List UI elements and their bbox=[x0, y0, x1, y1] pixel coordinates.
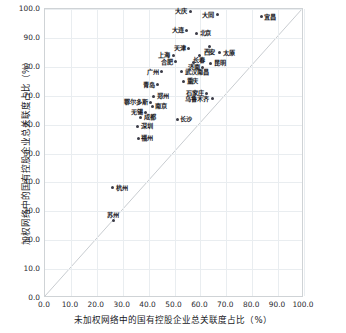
gridline-vertical bbox=[97, 9, 98, 296]
data-point bbox=[176, 118, 179, 121]
gridline-vertical bbox=[71, 9, 72, 296]
y-axis-label-wrap: 加权网络中的国有控股企业总关联度占比（%） bbox=[8, 8, 24, 297]
plot-area: 大庆大同宜昌大连北京天津西安太原上海长春合肥济南昆明南昌广州武汉重庆青岛石家庄郑… bbox=[44, 8, 303, 297]
y-axis-tick-label: 20.0 bbox=[24, 235, 40, 244]
gridline-horizontal bbox=[45, 96, 302, 97]
gridline-horizontal bbox=[45, 240, 302, 241]
y-axis-tick-label: 70.0 bbox=[24, 90, 40, 99]
gridline-horizontal bbox=[45, 182, 302, 183]
gridline-horizontal bbox=[45, 38, 302, 39]
y-axis-tick-label: 10.0 bbox=[24, 264, 40, 273]
data-point-label: 杭州 bbox=[116, 184, 128, 190]
data-point-label: 武汉 bbox=[185, 69, 197, 75]
data-point-label: 太原 bbox=[223, 50, 235, 56]
x-axis-tick-label: 10.0 bbox=[62, 300, 78, 309]
data-point-label: 南京 bbox=[155, 103, 167, 109]
x-axis-tick-label: 90.0 bbox=[269, 300, 285, 309]
data-point-label: 长沙 bbox=[180, 116, 192, 122]
gridline-vertical bbox=[278, 9, 279, 296]
data-point-label: 苏州 bbox=[107, 211, 119, 217]
x-axis-tick-label: 60.0 bbox=[191, 300, 207, 309]
scatter-chart-figure: 大庆大同宜昌大连北京天津西安太原上海长春合肥济南昆明南昌广州武汉重庆青岛石家庄郑… bbox=[0, 0, 346, 333]
gridline-horizontal bbox=[45, 9, 302, 10]
data-point-label: 大连 bbox=[172, 27, 184, 33]
data-point-label: 南昌 bbox=[197, 69, 209, 75]
data-point-label: 重庆 bbox=[187, 78, 199, 84]
data-point-label: 大同 bbox=[202, 12, 214, 18]
data-point bbox=[209, 62, 212, 65]
data-point-label: 郑州 bbox=[157, 93, 169, 99]
data-point-label: 无锡 bbox=[131, 109, 143, 115]
x-axis-tick-label: 100.0 bbox=[292, 300, 313, 309]
data-point-label: 天津 bbox=[174, 45, 186, 51]
gridline-horizontal bbox=[45, 154, 302, 155]
data-point bbox=[172, 54, 175, 57]
data-point-label: 青岛 bbox=[143, 82, 155, 88]
gridline-vertical bbox=[149, 9, 150, 296]
x-axis-tick-label: 70.0 bbox=[217, 300, 233, 309]
data-point bbox=[182, 80, 185, 83]
x-axis-tick-label: 20.0 bbox=[88, 300, 104, 309]
data-point-label: 成都 bbox=[144, 114, 156, 120]
data-point-label: 大庆 bbox=[175, 8, 187, 14]
x-axis-tick-label: 80.0 bbox=[243, 300, 259, 309]
gridline-horizontal bbox=[45, 125, 302, 126]
data-point bbox=[195, 32, 198, 35]
y-axis-tick-label: 80.0 bbox=[24, 61, 40, 70]
y-axis-tick-label: 0.0 bbox=[28, 293, 40, 302]
data-point bbox=[137, 137, 140, 140]
data-point-label: 西安 bbox=[204, 49, 216, 55]
data-point-label: 合肥 bbox=[161, 58, 173, 64]
data-point-label: 宜昌 bbox=[264, 14, 276, 20]
data-point-label: 广州 bbox=[147, 69, 159, 75]
y-axis-tick-label: 30.0 bbox=[24, 206, 40, 215]
reference-line bbox=[45, 9, 302, 296]
y-axis-tick-label: 100.0 bbox=[19, 4, 40, 13]
gridline-horizontal bbox=[45, 269, 302, 270]
y-axis-tick-label: 60.0 bbox=[24, 119, 40, 128]
y-axis-tick-label: 90.0 bbox=[24, 32, 40, 41]
y-axis-tick-label: 40.0 bbox=[24, 177, 40, 186]
data-point bbox=[187, 47, 190, 50]
gridline-vertical bbox=[200, 9, 201, 296]
gridline-vertical bbox=[175, 9, 176, 296]
gridline-horizontal bbox=[45, 211, 302, 212]
data-point bbox=[136, 125, 139, 128]
data-point-label: 福州 bbox=[141, 135, 153, 141]
data-point bbox=[112, 219, 115, 222]
gridline-vertical bbox=[123, 9, 124, 296]
gridline-horizontal bbox=[45, 67, 302, 68]
x-axis-tick-label: 40.0 bbox=[139, 300, 155, 309]
data-point-label: 乌鲁木齐 bbox=[185, 95, 209, 101]
y-axis-tick-label: 50.0 bbox=[24, 148, 40, 157]
x-axis-tick-label: 30.0 bbox=[113, 300, 129, 309]
data-point-label: 昆明 bbox=[214, 60, 226, 66]
data-point bbox=[189, 10, 192, 13]
data-point-label: 北京 bbox=[200, 30, 212, 36]
data-point-label: 深圳 bbox=[141, 123, 153, 129]
gridline-vertical bbox=[304, 9, 305, 296]
x-axis-tick-label: 50.0 bbox=[165, 300, 181, 309]
data-point bbox=[149, 101, 152, 104]
data-point bbox=[211, 97, 214, 100]
data-point-label: 鄂尔多斯 bbox=[124, 99, 148, 105]
x-axis-label: 未加权网络中的国有控股企业总关联度占比（%） bbox=[0, 313, 346, 325]
gridline-vertical bbox=[252, 9, 253, 296]
data-point bbox=[151, 105, 154, 108]
